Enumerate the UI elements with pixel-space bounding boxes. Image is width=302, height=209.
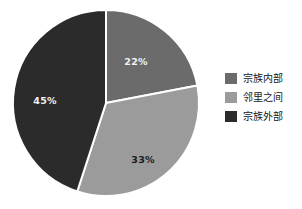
pie-slice-value-label: 22% [124, 56, 148, 67]
pie-slice-value-label: 45% [33, 95, 57, 106]
legend-item[interactable]: 邻里之间 [225, 91, 300, 104]
pie-slice-value-label: 33% [131, 154, 155, 165]
legend-color-swatch-icon [225, 92, 237, 103]
legend-item-label: 宗族内部 [243, 73, 283, 84]
legend-item-label: 邻里之间 [243, 92, 283, 103]
legend-color-swatch-icon [225, 73, 237, 84]
legend-item[interactable]: 宗族外部 [225, 110, 300, 123]
chart-legend: 宗族内部邻里之间宗族外部 [225, 72, 300, 123]
pie-chart-plot-area: 22%33%45% [0, 0, 210, 209]
pie-chart-svg: 22%33%45% [0, 0, 210, 209]
legend-item[interactable]: 宗族内部 [225, 72, 300, 85]
pie-chart-figure: 22%33%45% 宗族内部邻里之间宗族外部 [0, 0, 302, 209]
legend-item-label: 宗族外部 [243, 111, 283, 122]
legend-color-swatch-icon [225, 111, 237, 122]
